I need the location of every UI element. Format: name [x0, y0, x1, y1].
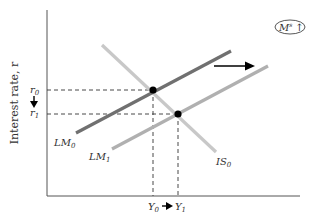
y-axis-label: Interest rate, r [8, 61, 21, 144]
x-tick-y1: Y1 [175, 201, 186, 214]
shift-arrow-icon [214, 62, 255, 71]
lm0-label: LM0 [53, 137, 76, 150]
y-tick-r0: r0 [30, 84, 40, 97]
svg-text:Ms: Ms [278, 21, 292, 33]
right-arrow-icon [162, 202, 173, 210]
equilibrium-point-initial [149, 86, 156, 93]
is0-label: IS0 [215, 156, 232, 169]
svg-text:↑: ↑ [295, 22, 303, 33]
is-lm-diagram: Interest rate, r Ms ↑ r0 r1 Y0 [0, 0, 312, 216]
lm1-label: LM1 [88, 151, 110, 164]
money-supply-increase-badge: Ms ↑ [275, 20, 305, 34]
x-tick-y0: Y0 [148, 201, 160, 214]
y-tick-r1: r1 [30, 107, 39, 120]
is0-curve [102, 45, 216, 152]
equilibrium-point-new [174, 110, 181, 117]
